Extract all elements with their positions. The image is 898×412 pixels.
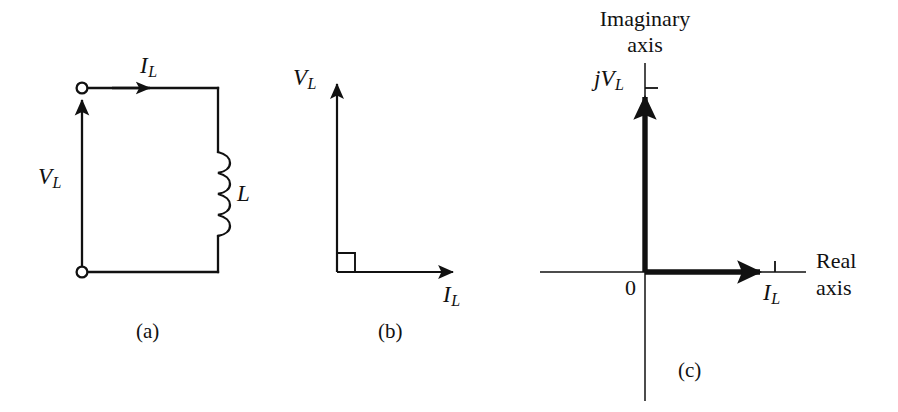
label-imaginary-axis-line1: Imaginary xyxy=(569,8,721,30)
caption-b: (b) xyxy=(378,321,403,342)
panel-c-complex-plane xyxy=(540,63,806,401)
caption-a: (a) xyxy=(136,321,159,342)
figure-container: IL VL L (a) VL IL (b) Imaginary axis Rea… xyxy=(0,0,898,412)
label-inductor-a: L xyxy=(237,182,250,205)
figure-drawing xyxy=(0,0,898,412)
label-voltage-axis-b: VL xyxy=(293,66,316,92)
caption-c: (c) xyxy=(678,360,701,381)
label-real-axis-line2: axis xyxy=(816,277,851,299)
label-real-phasor: IL xyxy=(763,281,780,307)
label-voltage-a: VL xyxy=(38,165,61,191)
label-current-axis-b: IL xyxy=(443,283,460,309)
panel-a-circuit xyxy=(77,83,230,278)
terminal-bottom xyxy=(77,267,88,278)
terminal-top xyxy=(77,83,88,94)
label-current-a: IL xyxy=(140,54,157,80)
right-angle-marker xyxy=(337,253,355,272)
panel-b-phasor xyxy=(337,84,453,272)
label-imaginary-phasor: jVL xyxy=(594,67,624,93)
label-real-axis-line1: Real xyxy=(816,250,856,272)
label-imaginary-axis-line2: axis xyxy=(569,34,721,56)
inductor-coil-icon xyxy=(218,152,230,236)
label-origin: 0 xyxy=(625,277,636,299)
